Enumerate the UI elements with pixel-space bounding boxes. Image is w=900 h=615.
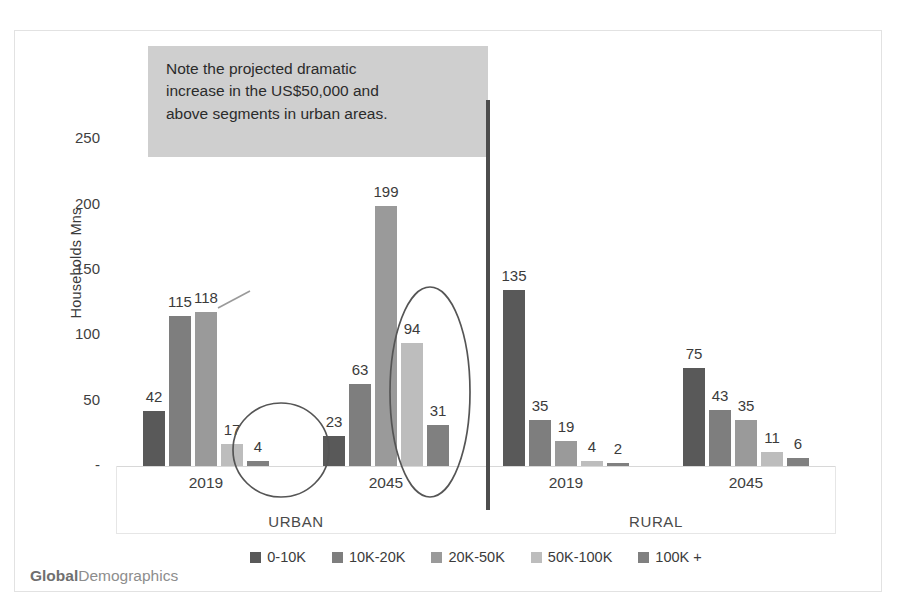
chart-legend: 0-10K 10K-20K 20K-50K 50K-100K 100K +	[116, 549, 836, 565]
bar-100k--2045-1[interactable]: 31	[427, 425, 449, 466]
bar-value-label: 42	[146, 388, 163, 405]
watermark: GlobalDemographics	[30, 567, 178, 585]
bar-value-label: 35	[532, 397, 549, 414]
x-label-rural-2045: 2045	[686, 474, 806, 492]
x-label-rural-2019: 2019	[506, 474, 626, 492]
legend-swatch-icon	[250, 552, 261, 563]
bar-10k-20k-2019-2[interactable]: 35	[529, 420, 551, 466]
bar-value-label: 118	[194, 289, 218, 306]
bar-value-label: 6	[794, 435, 802, 452]
bar-value-label: 4	[588, 438, 596, 455]
legend-label: 50K-100K	[548, 549, 613, 565]
bar-value-label: 2	[614, 440, 622, 457]
legend-label: 20K-50K	[448, 549, 504, 565]
bar-value-label: 31	[430, 402, 447, 419]
legend-item-100k-plus[interactable]: 100K +	[638, 549, 701, 565]
bar-0-10k-2019-0[interactable]: 42	[143, 411, 165, 466]
bar-value-label: 63	[352, 361, 369, 378]
legend-item-20k-50k[interactable]: 20K-50K	[431, 549, 504, 565]
bar-value-label: 43	[712, 387, 729, 404]
legend-item-10k-20k[interactable]: 10K-20K	[332, 549, 405, 565]
bar-50k-100k-2019-0[interactable]: 17	[221, 444, 243, 466]
legend-swatch-icon	[638, 552, 649, 563]
bar-20k-50k-2045-3[interactable]: 35	[735, 420, 757, 466]
bar-value-label: 75	[686, 345, 703, 362]
bar-0-10k-2019-2[interactable]: 135	[503, 290, 525, 466]
bar-value-label: 199	[373, 183, 398, 200]
callout-note: Note the projected dramatic increase in …	[148, 46, 488, 157]
legend-label: 100K +	[655, 549, 701, 565]
bar-value-label: 19	[558, 418, 575, 435]
legend-swatch-icon	[431, 552, 442, 563]
urban-rural-divider	[486, 100, 490, 510]
y-tick-label-250: 250	[52, 129, 100, 146]
bar-50k-100k-2045-1[interactable]: 94	[401, 343, 423, 466]
bar-0-10k-2045-3[interactable]: 75	[683, 368, 705, 466]
bar-20k-50k-2019-0[interactable]: 118	[195, 312, 217, 466]
bar-value-label: 35	[738, 397, 755, 414]
legend-label: 0-10K	[267, 549, 306, 565]
bar-20k-50k-2045-1[interactable]: 199	[375, 206, 397, 466]
callout-line-2: increase in the US$50,000 and	[166, 80, 472, 102]
legend-label: 10K-20K	[349, 549, 405, 565]
bar-group-3: 754335116	[683, 100, 809, 466]
bar-value-label: 94	[404, 320, 421, 337]
legend-swatch-icon	[531, 552, 542, 563]
y-tick-label-200: 200	[52, 195, 100, 212]
y-tick-label-100: 100	[52, 325, 100, 342]
legend-item-0-10k[interactable]: 0-10K	[250, 549, 306, 565]
bar-cluster: 135351942	[503, 100, 629, 466]
x-label-urban-2045: 2045	[326, 474, 446, 492]
y-tick-label-50: 50	[52, 391, 100, 408]
legend-swatch-icon	[332, 552, 343, 563]
callout-line-3: above segments in urban areas.	[166, 103, 472, 125]
bar-100k--2045-3[interactable]: 6	[787, 458, 809, 466]
bar-10k-20k-2019-0[interactable]: 115	[169, 316, 191, 466]
bar-value-label: 4	[254, 438, 262, 455]
x-group-label-urban: URBAN	[196, 513, 396, 530]
bar-10k-20k-2045-1[interactable]: 63	[349, 384, 371, 466]
y-tick-label-150: 150	[52, 260, 100, 277]
bar-value-label: 17	[224, 421, 241, 438]
bar-value-label: 23	[326, 413, 343, 430]
bar-value-label: 11	[764, 429, 780, 446]
y-tick-label-0: -	[52, 456, 100, 473]
watermark-light: Demographics	[78, 567, 178, 584]
bar-50k-100k-2045-3[interactable]: 11	[761, 452, 783, 466]
chart-canvas: Households Mns 250 200 150 100 50 - 4211…	[0, 0, 900, 615]
bar-0-10k-2045-1[interactable]: 23	[323, 436, 345, 466]
callout-line-1: Note the projected dramatic	[166, 58, 472, 80]
bar-group-2: 135351942	[503, 100, 629, 466]
watermark-bold: Global	[30, 567, 78, 584]
bar-value-label: 135	[501, 267, 526, 284]
bar-cluster: 754335116	[683, 100, 809, 466]
bar-10k-20k-2045-3[interactable]: 43	[709, 410, 731, 466]
bar-value-label: 115	[168, 293, 192, 310]
x-label-urban-2019: 2019	[146, 474, 266, 492]
bar-20k-50k-2019-2[interactable]: 19	[555, 441, 577, 466]
legend-item-50k-100k[interactable]: 50K-100K	[531, 549, 613, 565]
x-group-label-rural: RURAL	[556, 513, 756, 530]
